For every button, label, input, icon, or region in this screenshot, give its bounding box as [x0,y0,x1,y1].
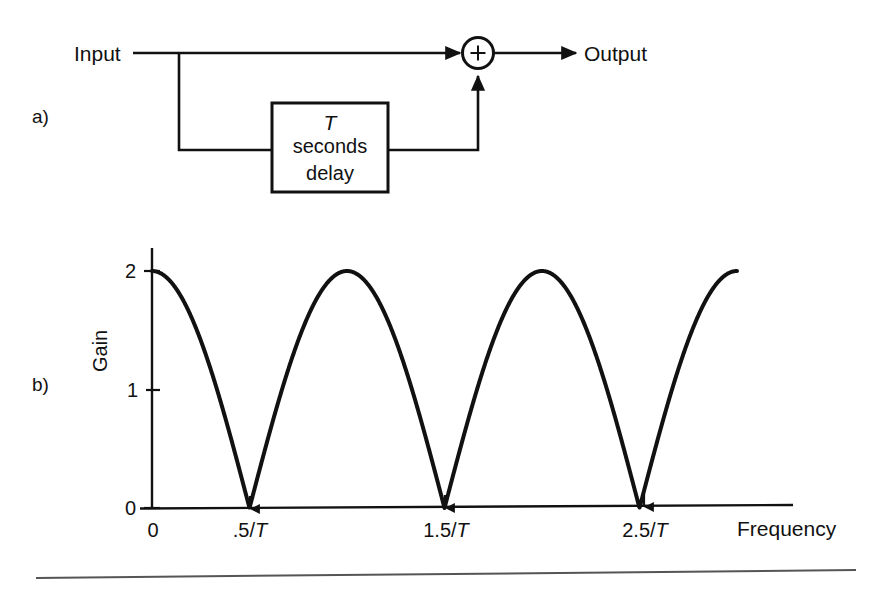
x-tick-label-half-over-t: .5/T [233,520,267,540]
plot-graphics [140,248,793,509]
x-axis-line [140,505,793,509]
delay-block-line-1: T [324,112,337,133]
x-tick-half-text: .5/T [233,519,267,541]
x-tick-label-one-point-five-over-t: 1.5/T [423,520,469,540]
gain-curve [152,271,737,508]
y-tick-label-2: 2 [125,261,136,281]
x-tick-1p5-text: 1.5/T [423,519,469,541]
output-label: Output [584,43,647,64]
panel-b-label: b) [32,375,49,394]
y-axis-label: Gain [90,330,110,372]
delay-block-line-2: seconds [293,136,368,156]
x-tick-label-two-point-five-over-t: 2.5/T [622,520,668,540]
y-tick-label-1: 1 [127,380,138,400]
figure-root: a) b) Input Output T seconds delay Gain … [0,0,871,591]
x-tick-2p5-text: 2.5/T [622,519,668,541]
bottom-divider-rule [36,570,856,578]
delay-branch-path [179,53,272,150]
y-tick-label-0: 0 [125,498,136,518]
delay-output-path [388,76,478,150]
panel-a-label: a) [32,107,49,126]
x-tick-label-0: 0 [147,520,158,540]
delay-block-line-3: delay [306,163,354,183]
delay-time-symbol: T [324,111,337,134]
x-axis-label: Frequency [737,518,836,539]
input-label: Input [74,43,121,64]
block-diagram-graphics [133,38,576,193]
